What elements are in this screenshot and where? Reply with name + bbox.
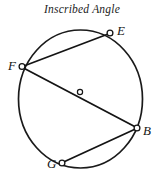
vertex-marker-g [59,160,65,166]
vertex-label-g: G [47,157,56,170]
vertex-marker-f [19,64,25,70]
center-point-marker [77,89,82,94]
inscribed-angle-figure: Inscribed Angle E F B G [0,0,164,182]
vertex-marker-b [134,125,140,131]
geometry-canvas [0,0,164,182]
vertex-label-e: E [117,24,125,37]
vertex-label-b: B [143,124,151,137]
chord-fe [23,34,110,67]
chord-fb [23,68,137,128]
vertex-marker-e [107,30,113,36]
vertex-label-f: F [8,59,16,72]
